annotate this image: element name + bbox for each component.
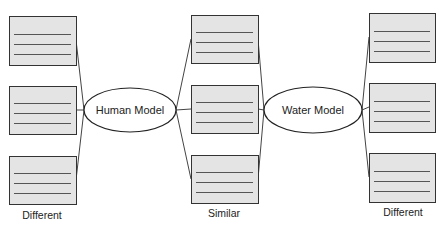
attribute-box-left-2 xyxy=(10,87,77,135)
box-frame xyxy=(10,157,77,205)
attribute-box-left-1 xyxy=(10,17,77,66)
connector-line xyxy=(176,110,191,179)
box-frame xyxy=(10,17,77,66)
human-model-node: Human Model xyxy=(84,88,176,132)
box-frame xyxy=(370,84,436,133)
attribute-box-right-2 xyxy=(370,84,436,133)
box-frame xyxy=(192,156,259,204)
connector-line xyxy=(176,39,191,110)
box-frame xyxy=(192,86,259,134)
box-frame xyxy=(370,14,436,63)
attribute-box-left-3 xyxy=(10,157,77,205)
double-bubble-diagram: Human Model Water Model Different Simila… xyxy=(0,0,446,227)
attribute-box-middle-2 xyxy=(192,86,259,134)
connector-line xyxy=(76,40,84,110)
attribute-box-right-3 xyxy=(370,154,436,203)
connector-line xyxy=(76,110,84,180)
water-model-label: Water Model xyxy=(282,104,344,116)
caption-right-different: Different xyxy=(383,206,423,218)
connector-line xyxy=(176,109,191,110)
attribute-boxes xyxy=(10,14,436,205)
box-frame xyxy=(370,154,436,203)
box-frame xyxy=(192,16,259,64)
attribute-box-right-1 xyxy=(370,14,436,63)
water-model-node: Water Model xyxy=(264,87,362,133)
box-frame xyxy=(10,87,77,135)
caption-left-different: Different xyxy=(22,209,62,221)
caption-middle-similar: Similar xyxy=(208,207,241,219)
attribute-box-middle-3 xyxy=(192,156,259,204)
attribute-box-middle-1 xyxy=(192,16,259,64)
human-model-label: Human Model xyxy=(96,104,164,116)
connector-line xyxy=(362,110,369,177)
connector-line xyxy=(362,37,369,110)
connector-line xyxy=(362,107,369,110)
column-captions: Different Similar Different xyxy=(22,206,423,221)
